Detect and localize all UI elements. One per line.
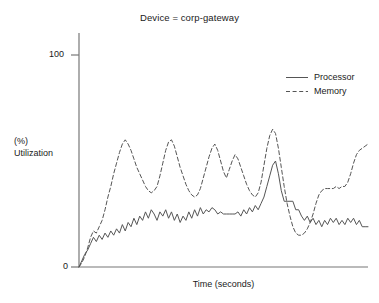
legend-item-processor: Processor [286,70,355,84]
series-line-memory [79,129,368,267]
legend-label-memory: Memory [314,86,347,96]
legend-swatch-solid-icon [286,73,308,82]
plot-area [0,0,379,303]
legend-item-memory: Memory [286,84,355,98]
chart-legend: Processor Memory [286,70,355,98]
legend-swatch-dashed-icon [286,87,308,96]
series-line-processor [79,161,368,267]
legend-label-processor: Processor [314,72,355,82]
chart-container: Device = corp-gateway (%) Utilization 10… [0,0,379,303]
